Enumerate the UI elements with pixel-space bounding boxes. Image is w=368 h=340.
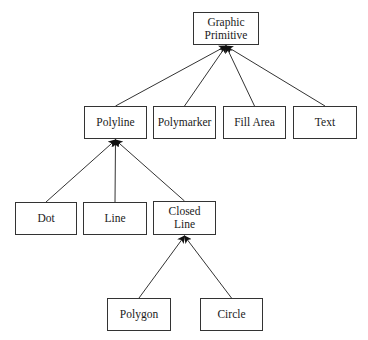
edge-closed_line-to-polyline [116, 140, 185, 201]
node-label: Fill Area [234, 116, 275, 129]
node-closed-line: Closed Line [153, 201, 216, 235]
edge-polygon-to-closed_line [139, 236, 185, 298]
node-label: Graphic Primitive [205, 16, 248, 42]
node-polymarker: Polymarker [153, 106, 216, 139]
node-label: Polygon [120, 308, 158, 321]
node-polygon: Polygon [107, 298, 171, 331]
node-label: Circle [217, 308, 245, 321]
node-line: Line [83, 202, 147, 235]
node-label: Closed Line [169, 205, 201, 231]
node-dot: Dot [15, 202, 77, 235]
node-label: Line [104, 212, 125, 225]
edge-text-to-graphic_primitive [226, 46, 325, 106]
node-label: Polyline [96, 116, 134, 129]
node-label: Polymarker [158, 116, 212, 129]
inheritance-edges [0, 0, 368, 340]
node-text: Text [293, 106, 357, 139]
edge-dot-to-polyline [46, 140, 116, 202]
edge-polyline-to-graphic_primitive [116, 46, 227, 106]
edge-circle-to-closed_line [185, 236, 232, 298]
node-graphic-primitive: Graphic Primitive [193, 12, 259, 45]
node-circle: Circle [200, 298, 263, 331]
node-label: Dot [37, 212, 54, 225]
edge-polymarker-to-graphic_primitive [185, 46, 227, 106]
node-label: Text [315, 116, 335, 129]
edge-line-to-polyline [115, 140, 116, 202]
node-fill-area: Fill Area [223, 106, 286, 139]
node-polyline: Polyline [84, 106, 147, 139]
